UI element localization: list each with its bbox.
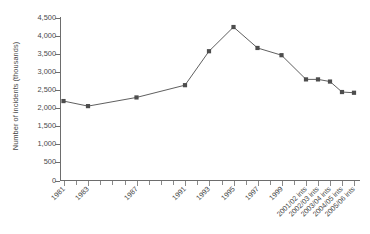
- y-tick-mark: [55, 72, 60, 73]
- y-tick-mark: [55, 54, 60, 55]
- y-tick-mark: [55, 181, 60, 182]
- incidents-line-chart: Number of incidents (thousands) 05001,00…: [0, 0, 370, 234]
- y-tick-mark: [55, 144, 60, 145]
- x-tick-label: 1997: [212, 185, 260, 233]
- y-tick-mark: [55, 126, 60, 127]
- x-tick-label: 1987: [91, 185, 139, 233]
- y-tick-mark: [55, 36, 60, 37]
- y-tick-mark: [55, 18, 60, 19]
- x-tick-label: 1983: [43, 185, 91, 233]
- x-tick-label: 1995: [188, 185, 236, 233]
- y-tick-mark: [55, 90, 60, 91]
- y-tick-mark: [55, 108, 60, 109]
- x-tick-label: 1993: [164, 185, 212, 233]
- y-tick-mark: [55, 162, 60, 163]
- x-tick-label: 1981: [18, 185, 66, 233]
